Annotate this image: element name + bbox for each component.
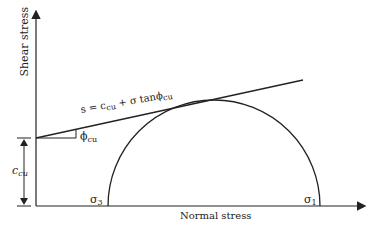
y-axis-label: Shear stress <box>18 17 31 77</box>
diagram-graphics <box>0 0 384 229</box>
mohr-circle-diagram: Shear stress Normal stress s = ccu + σ t… <box>0 0 384 229</box>
sigma1-label: σ1 <box>304 193 317 207</box>
cohesion-label: ccu <box>12 164 28 178</box>
x-axis-label: Normal stress <box>180 210 251 221</box>
friction-angle-label: ϕcu <box>80 130 97 144</box>
sigma3-label: σ3 <box>90 193 103 207</box>
